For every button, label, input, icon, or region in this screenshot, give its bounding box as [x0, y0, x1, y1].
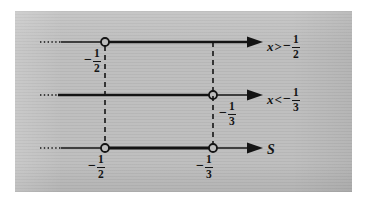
- number-line-middle: [40, 90, 263, 101]
- tick-minus-top-half: −: [84, 53, 92, 67]
- tick-numerator-top-half: 1: [93, 48, 101, 61]
- line-label-x-less-than: x<−13: [267, 87, 300, 113]
- tick-numerator-bottom-third: 1: [205, 154, 213, 167]
- fraction-negative-one-third-middle: −13: [283, 87, 300, 113]
- arrowhead-bottom: [247, 143, 263, 154]
- open-circle-bottom-half: [101, 144, 109, 152]
- tick-label-top-negative-one-half: −12: [84, 48, 101, 74]
- tick-denominator-top-half: 2: [93, 61, 101, 75]
- tick-minus-bottom-half: −: [88, 159, 96, 173]
- number-line-bottom: [40, 143, 263, 154]
- tick-denominator-bottom-third: 3: [205, 167, 213, 181]
- tick-label-bottom-negative-one-half: −12: [88, 154, 105, 180]
- number-line-top: [40, 37, 263, 48]
- arrowhead-middle: [247, 90, 263, 101]
- tick-denominator-bottom-half: 2: [97, 167, 105, 181]
- tick-numerator-bottom-half: 1: [97, 154, 105, 167]
- open-circle-bottom-third: [209, 144, 217, 152]
- tick-label-middle-negative-one-third: −13: [219, 101, 236, 127]
- label-variable-middle: x: [267, 92, 274, 107]
- minus-sign-middle: −: [283, 92, 291, 106]
- fraction-negative-one-half-top: −12: [283, 34, 300, 60]
- tick-numerator-middle-third: 1: [228, 101, 236, 114]
- arrowhead-top: [247, 37, 263, 48]
- numerator-top: 1: [292, 34, 300, 47]
- number-line-figure: x>−12 x<−13 S −12 −13 −12 −13: [0, 0, 367, 204]
- line-label-x-greater-than: x>−12: [267, 34, 300, 60]
- minus-sign-top: −: [283, 39, 291, 53]
- open-circle-top-half: [101, 38, 109, 46]
- number-lines-plot: [0, 0, 367, 204]
- denominator-middle: 3: [292, 100, 300, 114]
- tick-minus-bottom-third: −: [196, 159, 204, 173]
- label-relation-middle: <: [275, 92, 282, 107]
- numerator-middle: 1: [292, 87, 300, 100]
- denominator-top: 2: [292, 47, 300, 61]
- line-label-set-s: S: [267, 141, 275, 157]
- set-name-s: S: [267, 142, 275, 157]
- label-relation-top: >: [275, 39, 282, 54]
- tick-minus-middle-third: −: [219, 106, 227, 120]
- label-variable-top: x: [267, 39, 274, 54]
- tick-denominator-middle-third: 3: [228, 114, 236, 128]
- tick-label-bottom-negative-one-third: −13: [196, 154, 213, 180]
